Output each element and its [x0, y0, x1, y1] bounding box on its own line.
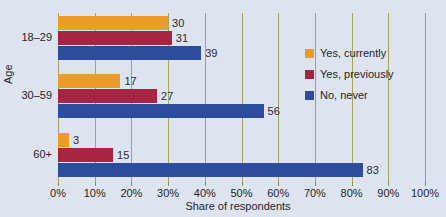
bar-value-label: 30 [168, 16, 184, 30]
x-axis-tick [388, 182, 389, 186]
legend-color-swatch [305, 91, 314, 100]
bar-value-label: 17 [120, 74, 136, 88]
bar[interactable] [58, 148, 113, 162]
x-axis-tick-label: 90% [377, 187, 399, 199]
x-axis-tick [425, 182, 426, 186]
x-axis-tick-label: 100% [411, 187, 439, 199]
y-axis-tick-label: 60+ [33, 148, 52, 160]
bar[interactable] [58, 74, 120, 88]
x-axis-tick-label: 70% [304, 187, 326, 199]
bar-row: 3 [58, 133, 425, 147]
bar[interactable] [58, 89, 157, 103]
legend-item[interactable]: Yes, currently [305, 46, 415, 60]
chart-legend: Yes, currentlyYes, previouslyNo, never [305, 46, 415, 109]
x-axis-tick-label: 50% [230, 187, 252, 199]
x-axis-tick-label: 30% [157, 187, 179, 199]
bar-value-label: 27 [157, 89, 173, 103]
bar-value-label: 31 [172, 31, 188, 45]
bar-value-label: 15 [113, 148, 129, 162]
x-axis-tick-label: 80% [341, 187, 363, 199]
bar-value-label: 39 [201, 46, 217, 60]
y-axis-tick-label: 30–59 [21, 89, 52, 101]
legend-label: Yes, previously [320, 68, 394, 80]
x-axis-tick [58, 182, 59, 186]
bar-row: 83 [58, 163, 425, 177]
bar-row: 31 [58, 31, 425, 45]
bar-row: 30 [58, 16, 425, 30]
legend-item[interactable]: Yes, previously [305, 67, 415, 81]
x-axis-title: Share of respondents [0, 200, 446, 212]
gridline-x [425, 13, 426, 182]
bar-value-label: 83 [363, 163, 379, 177]
x-axis-tick [242, 182, 243, 186]
x-axis-tick-label: 20% [120, 187, 142, 199]
bar[interactable] [58, 163, 363, 177]
legend-color-swatch [305, 49, 314, 58]
y-axis-category-labels: 18–2930–5960+ [0, 13, 52, 182]
bar-value-label: 3 [69, 133, 79, 147]
legend-label: No, never [320, 89, 368, 101]
x-axis-tick [315, 182, 316, 186]
bar-chart: Age 18–2930–5960+ 30313917275631583 0%10… [0, 0, 446, 217]
bar[interactable] [58, 104, 264, 118]
x-axis-tick [352, 182, 353, 186]
x-axis-tick-label: 60% [267, 187, 289, 199]
x-axis-tick [205, 182, 206, 186]
legend-color-swatch [305, 70, 314, 79]
bar-row: 15 [58, 148, 425, 162]
x-axis-tick-label: 0% [50, 187, 66, 199]
x-axis-tick [278, 182, 279, 186]
x-axis-tick [95, 182, 96, 186]
bar[interactable] [58, 16, 168, 30]
x-axis: 0%10%20%30%40%50%60%70%80%90%100% [58, 182, 425, 202]
bar[interactable] [58, 133, 69, 147]
bar[interactable] [58, 31, 172, 45]
x-axis-title-text: Share of respondents [155, 200, 290, 212]
bar-value-label: 56 [264, 104, 280, 118]
y-axis-tick-label: 18–29 [21, 31, 52, 43]
x-axis-tick [131, 182, 132, 186]
bar-group: 31583 [58, 133, 425, 178]
legend-label: Yes, currently [320, 47, 386, 59]
x-axis-tick [168, 182, 169, 186]
legend-item[interactable]: No, never [305, 88, 415, 102]
x-axis-tick-label: 40% [194, 187, 216, 199]
x-axis-tick-label: 10% [84, 187, 106, 199]
bar[interactable] [58, 46, 201, 60]
